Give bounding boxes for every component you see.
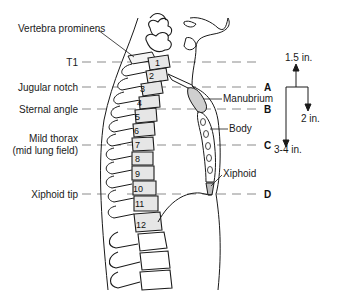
measurement-up-1-5-in: 1.5 in.: [285, 52, 312, 63]
level-letter-a: A: [264, 82, 271, 93]
arrow-up-icon: [293, 64, 299, 71]
thoracic-landmarks-diagram: 1 2 3 4 5 6 7 8 9 10 11 12: [0, 0, 340, 301]
label-t1: T1: [40, 57, 78, 68]
measurement-down-2-in: 2 in.: [301, 113, 320, 124]
measurement-bracket: [283, 64, 311, 147]
vertebra-number-11: 11: [135, 199, 144, 209]
vertebra-number-9: 9: [135, 169, 140, 179]
vertebra-number-7: 7: [135, 140, 140, 150]
neck-face-outline: [184, 18, 229, 86]
arrow-down-short-icon: [305, 104, 311, 111]
level-letter-c: C: [264, 140, 271, 151]
vertebra-number-1: 1: [155, 58, 160, 68]
vertebra-t4: [139, 95, 160, 109]
level-letter-b: B: [264, 104, 271, 115]
label-xiphoid: Xiphoid: [223, 168, 256, 179]
vertebra-number-4: 4: [137, 98, 142, 108]
label-vertebra-prominens: Vertebra prominens: [18, 23, 105, 34]
vertebra-number-10: 10: [133, 184, 143, 194]
lumbar-vertebrae: [109, 232, 172, 290]
label-mild-thorax: Mild thorax: [0, 133, 78, 144]
vertebra-number-8: 8: [135, 154, 140, 164]
xiphoid-shape: [206, 183, 214, 195]
diaphragm-curve: [158, 193, 212, 222]
label-sternal-angle: Sternal angle: [0, 104, 78, 115]
vertebra-number-3: 3: [140, 84, 145, 94]
label-mid-lung-field: (mid lung field): [0, 145, 78, 156]
vertebra-number-6: 6: [134, 126, 139, 136]
cervical-vertebrae: [146, 14, 172, 52]
measurement-down-3-4-in: 3-4 in.: [274, 144, 302, 155]
vertebra-number-5: 5: [135, 112, 140, 122]
level-letter-d: D: [264, 189, 271, 200]
label-jugular-notch: Jugular notch: [0, 82, 78, 93]
label-manubrium: Manubrium: [223, 93, 273, 104]
label-xiphoid-tip: Xiphoid tip: [0, 189, 78, 200]
label-body: Body: [229, 123, 252, 134]
vertebra-number-2: 2: [149, 71, 154, 81]
vertebra-number-12: 12: [136, 220, 146, 230]
